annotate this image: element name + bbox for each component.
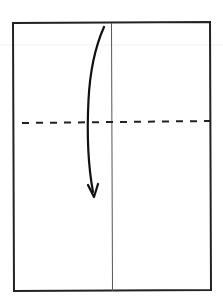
fold-diagram	[0, 0, 223, 308]
valley-fold-line	[22, 121, 210, 123]
center-crease-line	[112, 23, 113, 291]
fold-arrow-shaft	[88, 27, 104, 192]
